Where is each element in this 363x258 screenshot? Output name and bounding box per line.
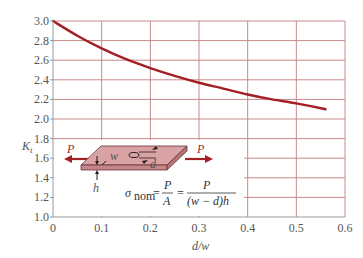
y-axis-label-sub: t	[30, 145, 33, 155]
y-axis-label: Kt	[21, 139, 33, 155]
formula-num-2: P	[202, 178, 211, 192]
y-tick-label: 2.8	[34, 34, 49, 48]
kt-curve-path	[53, 21, 326, 109]
x-tick-label: 0.4	[240, 221, 255, 235]
plate-diagram: P d w h P σ nom = P A =	[54, 140, 244, 216]
formula-den-2: (w − d)h	[187, 194, 229, 208]
x-tick-label: 0.6	[338, 221, 353, 235]
x-tick-label: 0	[50, 221, 56, 235]
x-axis-label: d/w	[192, 239, 209, 253]
x-tick-label: 0.1	[94, 221, 109, 235]
y-tick-label: 1.4	[34, 171, 49, 185]
x-tick-label: 0.2	[143, 221, 158, 235]
y-tick-label: 1.6	[34, 151, 49, 165]
y-tick-label: 3.0	[34, 14, 49, 28]
x-tick-label: 0.5	[289, 221, 304, 235]
x-tick-labels: 00.10.20.30.40.50.6	[50, 221, 353, 235]
formula-equals-2: =	[177, 186, 184, 200]
y-tick-label: 1.2	[34, 190, 49, 204]
formula-den-1: A	[162, 194, 171, 208]
formula-num-1: P	[163, 178, 172, 192]
load-label-left: P	[66, 142, 75, 156]
formula-equals-1: =	[153, 186, 160, 200]
y-tick-labels: 1.01.21.41.61.82.02.22.42.62.83.0	[34, 14, 53, 224]
stress-concentration-chart: 1.01.21.41.61.82.02.22.42.62.83.0 00.10.…	[0, 0, 363, 258]
y-tick-label: 2.0	[34, 112, 49, 126]
y-tick-label: 1.8	[34, 132, 49, 146]
hole-label: d	[150, 157, 157, 171]
y-tick-label: 1.0	[34, 210, 49, 224]
width-label: w	[110, 149, 118, 163]
x-tick-label: 0.3	[192, 221, 207, 235]
load-label-right: P	[196, 142, 205, 156]
y-tick-label: 2.2	[34, 92, 49, 106]
thickness-label: h	[93, 181, 99, 195]
y-tick-label: 2.4	[34, 73, 49, 87]
y-tick-label: 2.6	[34, 53, 49, 67]
kt-curve	[53, 21, 326, 109]
